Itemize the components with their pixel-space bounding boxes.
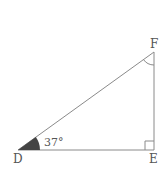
triangle-diagram: F D E 37° (0, 0, 168, 176)
angle-D-marker (18, 137, 40, 150)
angle-F-arc (144, 60, 155, 65)
right-angle-marker-E (145, 141, 154, 150)
vertex-label-D: D (13, 152, 23, 166)
side-DF (18, 52, 154, 150)
angle-D-label: 37° (44, 136, 64, 149)
vertex-label-E: E (149, 152, 158, 166)
vertex-label-F: F (150, 37, 158, 51)
